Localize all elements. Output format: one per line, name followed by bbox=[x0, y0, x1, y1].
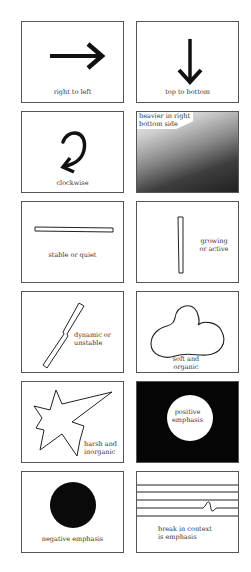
panel-break-in-context: break in context is emphasis bbox=[136, 471, 239, 553]
label-line: growing bbox=[193, 237, 235, 245]
label-line: emphasis bbox=[137, 416, 238, 424]
label-line: dynamic or bbox=[74, 331, 111, 339]
panel-negative-emphasis: negative emphasis bbox=[21, 471, 124, 553]
panel-positive-emphasis: positive emphasis bbox=[136, 381, 239, 463]
label-line: harsh and bbox=[84, 440, 117, 448]
panel-right-to-left: right to left bbox=[21, 21, 124, 103]
label-line: organic bbox=[169, 363, 203, 371]
label-line: soft and bbox=[169, 355, 203, 363]
panel-label: break in context is emphasis bbox=[158, 525, 212, 541]
panel-dynamic-or-unstable: dynamic or unstable bbox=[21, 291, 124, 373]
panel-growing-or-active: growing or active bbox=[136, 201, 239, 283]
label-line: or active bbox=[193, 245, 235, 253]
label-line: unstable bbox=[74, 339, 111, 347]
panel-label: right to left bbox=[22, 88, 123, 96]
panel-label: harsh and inorganic bbox=[83, 440, 117, 456]
panel-label: clockwise bbox=[22, 179, 123, 187]
panel-label: stable or quiet bbox=[22, 251, 123, 259]
panel-label: heavier in right bottom side bbox=[137, 112, 193, 129]
label-line: is emphasis bbox=[158, 533, 212, 541]
panel-clockwise: clockwise bbox=[21, 111, 124, 193]
panel-heavier-right-bottom: heavier in right bottom side bbox=[136, 111, 239, 193]
panel-stable-or-quiet: stable or quiet bbox=[21, 201, 124, 283]
panel-label: positive emphasis bbox=[137, 408, 238, 424]
horizontal-bar-shape bbox=[22, 202, 124, 283]
panel-label: dynamic or unstable bbox=[74, 331, 111, 347]
label-line: positive bbox=[137, 408, 238, 416]
panel-label: top to bottom bbox=[137, 88, 238, 96]
panel-soft-and-organic: soft and organic bbox=[136, 291, 239, 373]
panel-top-to-bottom: top to bottom bbox=[136, 21, 239, 103]
panel-label: growing or active bbox=[193, 237, 235, 253]
panel-label: negative emphasis bbox=[22, 535, 123, 543]
panel-label: soft and organic bbox=[169, 355, 203, 371]
label-line: break in context bbox=[158, 525, 212, 533]
label-line: inorganic bbox=[84, 448, 117, 456]
label-line: bottom side bbox=[139, 121, 190, 129]
panel-harsh-and-inorganic: harsh and inorganic bbox=[21, 381, 124, 463]
